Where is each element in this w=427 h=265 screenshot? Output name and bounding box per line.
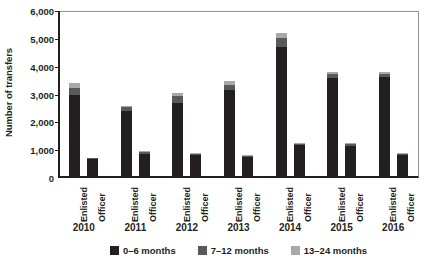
bar — [327, 72, 338, 178]
y-axis-tick-label: 6,000 — [30, 6, 54, 17]
x-axis-group-label: 2016 — [382, 222, 404, 233]
bars-layer — [58, 11, 419, 178]
legend-item: 13–24 months — [291, 245, 367, 256]
bar-segment — [69, 95, 80, 179]
x-axis-category-label: Officer — [148, 180, 158, 222]
bar-segment — [121, 111, 132, 178]
chart-legend: 0–6 months7–12 months13–24 months — [58, 242, 419, 258]
y-axis-tick-label: 0 — [49, 173, 54, 184]
legend-item: 0–6 months — [110, 245, 176, 256]
y-axis-tick-labels: 01,0002,0003,0004,0005,0006,000 — [16, 11, 58, 178]
x-axis-category-label: Officer — [200, 180, 210, 222]
y-axis-tick-label: 2,000 — [30, 117, 54, 128]
x-axis-group-label: 2014 — [279, 222, 301, 233]
legend-item: 7–12 months — [198, 245, 269, 256]
x-axis-category-label: Officer — [97, 180, 107, 222]
bar-segment — [276, 47, 287, 178]
bar-segment — [397, 155, 408, 178]
legend-label: 7–12 months — [211, 245, 269, 256]
bar-segment — [345, 146, 356, 178]
x-axis-group-label: 2011 — [124, 222, 146, 233]
bar — [294, 143, 305, 178]
legend-swatch — [198, 246, 207, 255]
bar — [172, 93, 183, 178]
bar — [345, 143, 356, 178]
bar — [69, 83, 80, 178]
bar — [139, 151, 150, 178]
x-axis-group-label: 2013 — [227, 222, 249, 233]
bar-segment — [69, 88, 80, 95]
bar-segment — [327, 78, 338, 178]
bar — [379, 72, 390, 178]
x-axis-group-label: 2015 — [331, 222, 353, 233]
x-axis-category-label: Enlisted — [388, 180, 398, 222]
x-axis-category-label: Enlisted — [79, 180, 89, 222]
bar — [224, 81, 235, 178]
y-axis-tick-label: 3,000 — [30, 89, 54, 100]
bar-segment — [172, 103, 183, 178]
x-axis-category-label: Enlisted — [285, 180, 295, 222]
bar-segment — [190, 155, 201, 178]
x-axis-category-labels: EnlistedOfficerEnlistedOfficerEnlistedOf… — [58, 180, 419, 222]
legend-swatch — [110, 246, 119, 255]
legend-swatch — [291, 246, 300, 255]
bar — [121, 106, 132, 178]
bar — [242, 155, 253, 178]
bar-segment — [242, 157, 253, 178]
bar-segment — [87, 159, 98, 178]
x-axis-category-label: Officer — [303, 180, 313, 222]
y-axis-tick-label: 5,000 — [30, 33, 54, 44]
x-axis-category-label: Enlisted — [182, 180, 192, 222]
x-axis-group-label: 2012 — [176, 222, 198, 233]
x-axis-category-label: Enlisted — [234, 180, 244, 222]
x-axis-category-label: Enlisted — [130, 180, 140, 222]
y-axis-title-text: Number of transfers — [3, 48, 14, 137]
bar — [276, 33, 287, 178]
legend-label: 0–6 months — [123, 245, 176, 256]
bar — [87, 158, 98, 178]
x-axis-category-label: Enlisted — [337, 180, 347, 222]
bar-segment — [379, 77, 390, 178]
x-axis-category-label: Officer — [252, 180, 262, 222]
x-axis-group-labels: 2010201120122013201420152016 — [58, 222, 419, 238]
x-axis-category-label: Officer — [355, 180, 365, 222]
bar-segment — [224, 90, 235, 178]
x-axis-category-label: Officer — [406, 180, 416, 222]
bar-segment — [139, 154, 150, 178]
bar — [190, 153, 201, 178]
x-axis-group-label: 2010 — [73, 222, 95, 233]
legend-label: 13–24 months — [304, 245, 367, 256]
y-axis-tick-label: 1,000 — [30, 145, 54, 156]
bar-segment — [276, 38, 287, 47]
bar-segment — [294, 145, 305, 178]
y-axis-title: Number of transfers — [0, 0, 16, 185]
bar-chart: Number of transfers 01,0002,0003,0004,00… — [0, 0, 427, 265]
bar — [397, 153, 408, 178]
y-axis-tick-label: 4,000 — [30, 61, 54, 72]
